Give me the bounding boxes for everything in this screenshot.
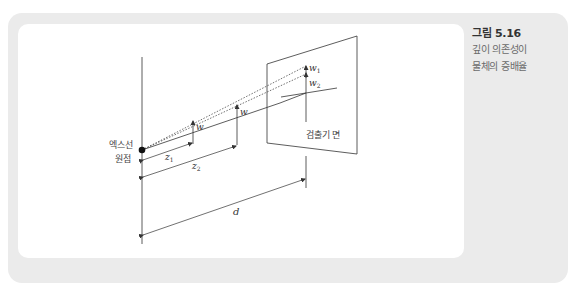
image-label-w2: w2	[309, 78, 321, 89]
xray-source-dot	[139, 147, 146, 154]
ray-to-w2	[142, 74, 306, 150]
z1-label: z1	[164, 152, 174, 163]
z2-label: z2	[191, 161, 201, 172]
d-label: d	[233, 206, 239, 217]
source-label-line1: 엑스선	[109, 139, 133, 150]
z2-dimension	[143, 146, 236, 177]
central-ray-on-detector	[281, 88, 337, 97]
central-ray	[142, 103, 280, 150]
ray-to-w1	[142, 66, 306, 150]
d-dimension	[143, 179, 305, 235]
object-label-far: w	[240, 107, 248, 117]
detector-label: 검출기 면	[306, 129, 341, 140]
source-label-line2: 원점	[115, 153, 131, 164]
object-label-near: w	[196, 122, 204, 132]
image-label-w1: w1	[309, 63, 321, 74]
